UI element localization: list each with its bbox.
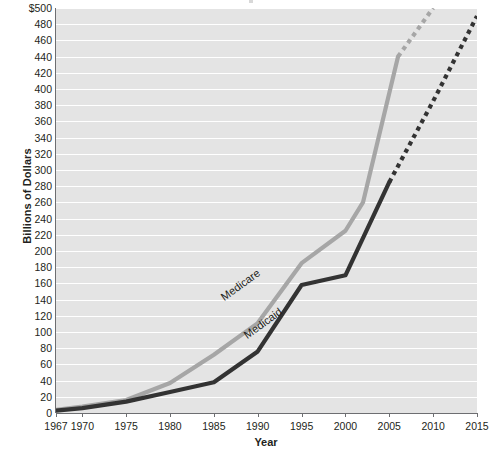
x-tick-label: 2015 xyxy=(454,420,500,432)
x-axis-line xyxy=(56,413,477,414)
y-tick-label: 120 xyxy=(4,311,52,321)
y-tick-label: 0 xyxy=(4,408,52,418)
y-tick-label: 160 xyxy=(4,278,52,288)
y-tick-label: 20 xyxy=(4,392,52,402)
x-tick-label: 1990 xyxy=(235,420,281,432)
x-tick-label: 1995 xyxy=(279,420,325,432)
x-tick-label: 2005 xyxy=(366,420,412,432)
plot-area xyxy=(56,8,477,413)
x-tick-mark xyxy=(302,413,303,417)
x-tick-mark xyxy=(82,413,83,417)
y-tick-label: 220 xyxy=(4,230,52,240)
x-tick-mark xyxy=(214,413,215,417)
x-tick-mark xyxy=(433,413,434,417)
y-tick-label: 240 xyxy=(4,214,52,224)
x-tick-label: 1975 xyxy=(103,420,149,432)
series-projection-medicaid xyxy=(389,16,477,182)
y-tick-label: 420 xyxy=(4,68,52,78)
x-tick-label: 1980 xyxy=(147,420,193,432)
series-line-medicare xyxy=(56,57,398,410)
chart-root: Billions of Dollars 02040608010012014016… xyxy=(0,0,501,458)
y-tick-label: 440 xyxy=(4,52,52,62)
y-tick-label: 200 xyxy=(4,246,52,256)
y-tick-label: 260 xyxy=(4,197,52,207)
y-tick-label: 180 xyxy=(4,262,52,272)
y-tick-label: $500 xyxy=(4,3,52,13)
y-tick-label: 480 xyxy=(4,19,52,29)
y-tick-label: 380 xyxy=(4,100,52,110)
y-axis-line xyxy=(55,8,56,413)
top-tick-mark xyxy=(249,0,253,3)
y-axis-tick-labels: 0204060801001201401601802002202402602803… xyxy=(0,0,52,458)
x-tick-mark xyxy=(170,413,171,417)
y-tick-label: 280 xyxy=(4,181,52,191)
x-tick-mark xyxy=(258,413,259,417)
x-tick-mark xyxy=(126,413,127,417)
y-tick-label: 80 xyxy=(4,343,52,353)
series-projection-medicare xyxy=(398,8,433,57)
x-axis-title: Year xyxy=(56,436,476,448)
x-tick-label: 1985 xyxy=(191,420,237,432)
x-tick-mark xyxy=(56,413,57,417)
y-tick-label: 140 xyxy=(4,295,52,305)
x-tick-mark xyxy=(389,413,390,417)
y-tick-label: 460 xyxy=(4,35,52,45)
x-tick-label: 1970 xyxy=(59,420,105,432)
y-tick-label: 100 xyxy=(4,327,52,337)
y-tick-label: 340 xyxy=(4,133,52,143)
x-tick-mark xyxy=(345,413,346,417)
x-tick-label: 2010 xyxy=(410,420,456,432)
y-tick-label: 60 xyxy=(4,359,52,369)
y-tick-label: 40 xyxy=(4,376,52,386)
x-tick-label: 2000 xyxy=(322,420,368,432)
y-tick-label: 300 xyxy=(4,165,52,175)
y-tick-label: 320 xyxy=(4,149,52,159)
y-tick-label: 400 xyxy=(4,84,52,94)
series-lines xyxy=(56,8,477,413)
x-tick-mark xyxy=(477,413,478,417)
y-tick-label: 360 xyxy=(4,116,52,126)
